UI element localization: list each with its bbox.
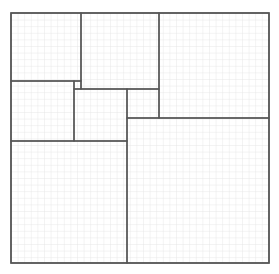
dissection-diagram xyxy=(0,0,279,274)
grid-paper xyxy=(11,13,269,263)
